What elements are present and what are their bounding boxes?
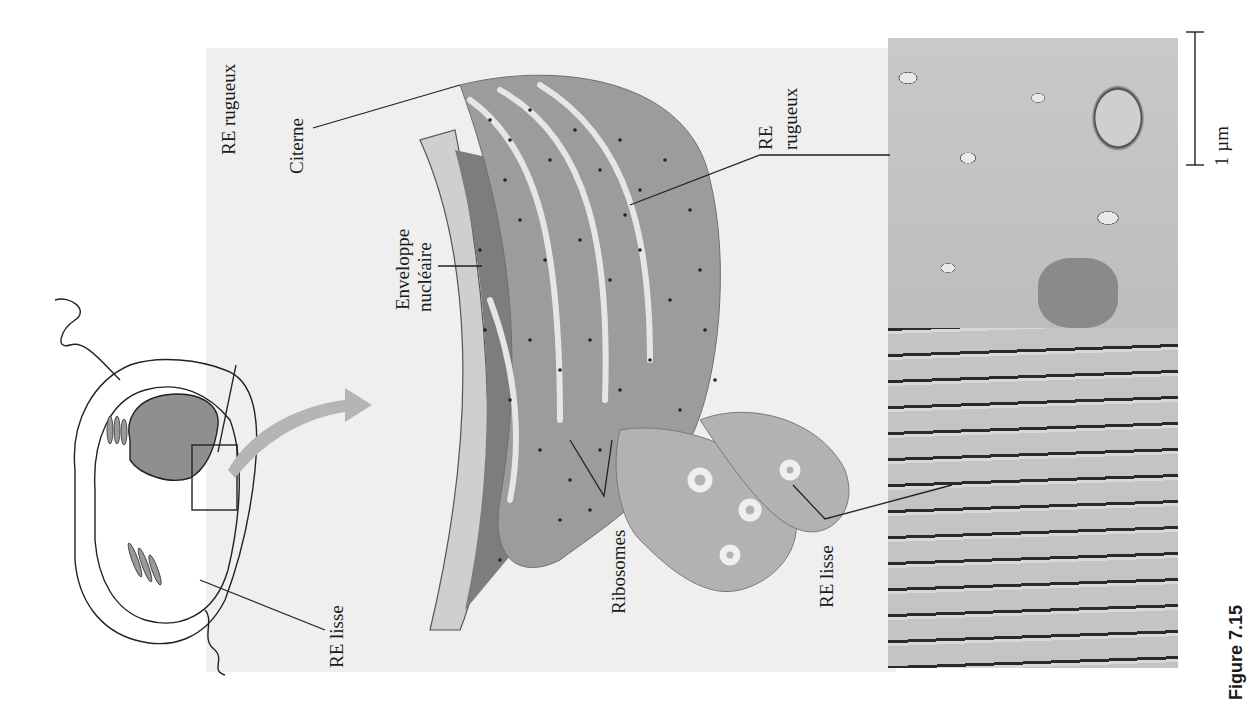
nucleus-icon — [129, 394, 218, 480]
leader-smooth-er-small — [200, 580, 325, 630]
label-ribosomes: Ribosomes — [608, 530, 629, 614]
zoom-arrow-icon — [228, 388, 372, 478]
label-rough-er-line2: rugueux — [780, 88, 801, 150]
figure-caption-label: Figure 7.15 — [1226, 605, 1247, 700]
label-rough-er-small: RE rugueux — [218, 64, 239, 155]
er-illustration — [420, 75, 849, 630]
flagellum-icon — [55, 299, 120, 380]
smooth-er-squiggle-icon — [205, 610, 225, 675]
label-smooth-er: RE lisse — [816, 545, 837, 608]
label-nuclear-envelope-line2: nucléaire — [414, 242, 435, 312]
label-smooth-er-small: RE lisse — [326, 605, 347, 668]
cell-diagram — [55, 299, 257, 675]
scale-bar-icon — [1186, 32, 1204, 165]
leader-rough-er-small — [218, 365, 236, 452]
label-scale-bar: 1 µm — [1211, 126, 1232, 166]
label-cisterna: Citerne — [286, 118, 307, 174]
leader-cisterna — [313, 85, 460, 128]
label-rough-er-line1: RE — [755, 126, 776, 150]
label-nuclear-envelope-line1: Enveloppe — [392, 229, 413, 310]
